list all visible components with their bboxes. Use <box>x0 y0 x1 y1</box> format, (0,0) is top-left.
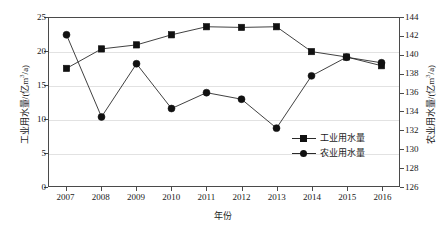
x-tick-label: 2008 <box>81 193 121 202</box>
data-point <box>343 54 350 61</box>
x-tick-label: 2012 <box>222 193 262 202</box>
y-tick-right <box>400 187 404 188</box>
y-tick-right <box>400 17 404 18</box>
y-tick-right <box>400 55 404 56</box>
y-tick-label-left: 20 <box>37 47 46 56</box>
y-axis-left-title: 工业用水量/(亿m3/a) <box>18 30 31 180</box>
x-tick-label: 2014 <box>292 193 332 202</box>
y-tick-label-right: 128 <box>405 164 419 173</box>
legend-label-industrial: 工业用水量 <box>320 131 365 146</box>
x-tick <box>347 187 348 191</box>
y-tick-label-right: 144 <box>405 13 419 22</box>
y-tick-right <box>400 149 404 150</box>
series-line-agricultural <box>67 35 382 128</box>
y-tick-label-left: 15 <box>37 81 46 90</box>
legend-label-agricultural: 农业用水量 <box>320 146 365 161</box>
y-tick-label-right: 132 <box>405 126 419 135</box>
x-tick-label: 2011 <box>186 193 226 202</box>
y-tick-label-right: 140 <box>405 50 419 59</box>
x-tick <box>66 187 67 191</box>
y-tick-label-right: 134 <box>405 107 419 116</box>
x-tick <box>101 187 102 191</box>
x-tick-label: 2016 <box>362 193 402 202</box>
data-point <box>308 72 315 79</box>
data-point <box>63 65 69 71</box>
y-tick-label-right: 142 <box>405 31 419 40</box>
legend-item-industrial: 工业用水量 <box>292 131 365 146</box>
x-tick-label: 2007 <box>46 193 86 202</box>
legend-square-marker-icon <box>292 134 316 144</box>
data-point <box>308 48 314 54</box>
x-tick-label: 2013 <box>257 193 297 202</box>
x-tick <box>171 187 172 191</box>
legend-circle-marker-icon <box>292 149 316 159</box>
y-tick-label-right: 136 <box>405 88 419 97</box>
data-point <box>238 24 244 30</box>
x-tick-label: 2009 <box>116 193 156 202</box>
data-point <box>378 59 385 66</box>
legend-item-agricultural: 农业用水量 <box>292 146 365 161</box>
data-point <box>168 105 175 112</box>
chart-container: 0510152025 12612813013213413613814014214… <box>0 0 445 240</box>
data-point <box>98 46 104 52</box>
x-tick <box>136 187 137 191</box>
y-tick-label-left: 5 <box>42 149 47 158</box>
x-tick <box>206 187 207 191</box>
x-tick-label: 2015 <box>327 193 367 202</box>
data-point <box>63 31 70 38</box>
y-tick-right <box>400 130 404 131</box>
x-tick <box>382 187 383 191</box>
plot-area <box>48 17 400 187</box>
y-tick-label-right: 138 <box>405 69 419 78</box>
data-point <box>238 96 245 103</box>
x-tick <box>277 187 278 191</box>
x-tick <box>312 187 313 191</box>
y-tick-label-left: 25 <box>37 13 46 22</box>
data-point <box>98 113 105 120</box>
y-axis-right-title: 农业用水量/(亿m3/a) <box>424 30 437 180</box>
data-point <box>133 42 139 48</box>
chart-legend: 工业用水量 农业用水量 <box>292 131 365 161</box>
data-point <box>168 32 174 38</box>
y-tick-label-right: 126 <box>405 183 419 192</box>
x-axis-title: 年份 <box>0 209 445 222</box>
y-tick-label-left: 0 <box>42 183 47 192</box>
data-point <box>203 24 209 30</box>
y-tick-right <box>400 111 404 112</box>
x-tick-label: 2010 <box>151 193 191 202</box>
data-point <box>133 60 140 67</box>
y-tick-right <box>400 93 404 94</box>
data-point <box>273 125 280 132</box>
y-tick-right <box>400 168 404 169</box>
x-tick <box>242 187 243 191</box>
y-tick-label-right: 130 <box>405 145 419 154</box>
y-tick-right <box>400 36 404 37</box>
series-line-industrial <box>67 27 382 69</box>
y-tick-right <box>400 74 404 75</box>
y-tick-label-left: 10 <box>37 115 46 124</box>
data-point <box>273 24 279 30</box>
data-point <box>203 89 210 96</box>
